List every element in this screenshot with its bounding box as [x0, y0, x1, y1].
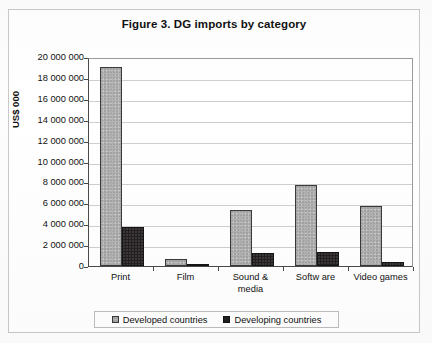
x-axis-category-label-line: Softw are [283, 272, 348, 284]
page-title: Figure 3. DG imports by category [8, 18, 420, 30]
bar [252, 253, 274, 266]
y-axis-tick-label: 6 000 000 [6, 198, 84, 208]
y-axis-tick-label: 12 000 000 [6, 136, 84, 146]
x-axis-category-label-line: media [218, 284, 283, 296]
x-axis-tick-mark [218, 267, 219, 271]
y-axis-tick-label: 10 000 000 [6, 157, 84, 167]
x-axis-tick-mark [348, 267, 349, 271]
x-axis-category-label: Softw are [283, 272, 348, 284]
y-axis-tick-label: 18 000 000 [6, 73, 84, 83]
x-axis-category-label: Print [88, 272, 153, 284]
plot-area [88, 58, 413, 267]
bar-group [230, 59, 274, 266]
bar [165, 259, 187, 266]
bar-group [295, 59, 339, 266]
x-axis-category-label-line: Film [153, 272, 218, 284]
x-axis-category-label: Sound &media [218, 272, 283, 295]
bar-group [100, 59, 144, 266]
legend-entry[interactable]: Developed countries [112, 315, 208, 325]
bar [360, 206, 382, 266]
legend-swatch-icon [112, 316, 119, 323]
y-axis-tick-label: 16 000 000 [6, 94, 84, 104]
y-axis-tick-mark [84, 267, 88, 268]
figure-container: Figure 3. DG imports by category US$ 000… [0, 0, 432, 343]
x-axis-category-label: Video games [348, 272, 413, 284]
legend-label: Developed countries [123, 315, 208, 325]
bar [230, 210, 252, 266]
y-axis-tick-label: 8 000 000 [6, 177, 84, 187]
bar [122, 227, 144, 266]
x-axis-tick-mark [413, 267, 414, 271]
y-axis-tick-label: 2 000 000 [6, 240, 84, 250]
y-axis-tick-label: 14 000 000 [6, 115, 84, 125]
y-axis-tick-label: 20 000 000 [6, 52, 84, 62]
legend-label: Developing countries [234, 315, 321, 325]
bar-group [165, 59, 209, 266]
x-axis-category-label-line: Print [88, 272, 153, 284]
x-axis-category-label-line: Video games [348, 272, 413, 284]
x-axis-category-label-line: Sound & [218, 272, 283, 284]
bar [100, 67, 122, 266]
bar [382, 262, 404, 266]
bar [295, 185, 317, 267]
x-axis-tick-mark [153, 267, 154, 271]
bar-group [360, 59, 404, 266]
x-axis-category-label: Film [153, 272, 218, 284]
x-axis-tick-mark [283, 267, 284, 271]
y-axis-tick-label: 0 [6, 261, 84, 271]
legend-swatch-icon [223, 316, 230, 323]
legend-entry[interactable]: Developing countries [223, 315, 321, 325]
bar [317, 252, 339, 266]
bar [187, 264, 209, 266]
y-axis-tick-label: 4 000 000 [6, 219, 84, 229]
chart-legend: Developed countriesDeveloping countries [94, 311, 339, 328]
